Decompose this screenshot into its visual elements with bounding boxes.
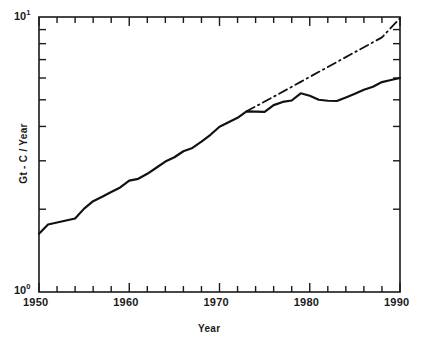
chart-plot-area — [0, 0, 431, 346]
series-observed-line — [39, 78, 400, 234]
x-tick-label: 1950 — [23, 296, 48, 308]
y-axis-title: Gt - C / Year — [18, 119, 29, 189]
x-tick-label: 1980 — [294, 296, 319, 308]
x-axis-title: Year — [198, 323, 220, 334]
chart-figure: 101 100 19501960197019801990 Year Gt - C… — [0, 0, 431, 346]
axis-frame — [39, 17, 400, 292]
y-axis-label-bottom: 100 — [14, 284, 30, 296]
x-tick-label: 1960 — [113, 296, 138, 308]
series-extrapolation-line — [247, 18, 400, 111]
plot-border — [39, 17, 400, 292]
x-tick-label: 1970 — [204, 296, 229, 308]
y-axis-label-top: 101 — [14, 10, 30, 22]
x-axis-ticks — [39, 17, 400, 292]
x-tick-label: 1990 — [384, 296, 409, 308]
